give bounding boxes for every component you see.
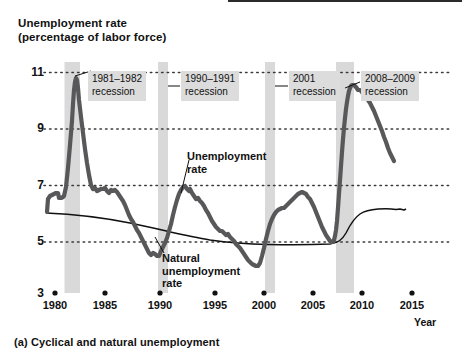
x-tick-dot-1985 (102, 290, 107, 295)
annotation-unemployment-rate-line1: Unemployment (187, 150, 266, 163)
annotation-natural-rate-line3: rate (162, 277, 240, 290)
recession-label-1990-1991: 1990–1991 recession (181, 71, 239, 101)
x-tick-dot-2000 (261, 290, 266, 295)
x-tick-dot-2010 (359, 290, 364, 295)
annotation-natural-rate-line2: unemployment (162, 265, 240, 278)
x-axis-label-2010: 2010 (339, 299, 385, 311)
y-axis-label-9: 9 (22, 121, 44, 135)
y-axis-label-7: 7 (22, 178, 44, 192)
annotation-natural-rate: Natural unemployment rate (162, 252, 240, 290)
recession-label-2001-line1: 2001 (293, 73, 336, 86)
figure-caption: (a) Cyclical and natural unemployment (14, 336, 219, 348)
recession-label-2008-2009-line2: recession (365, 86, 415, 99)
annotation-unemployment-rate: Unemployment rate (187, 150, 266, 175)
x-axis-label-1980: 1980 (32, 299, 78, 311)
x-tick-dot-1980 (52, 290, 57, 295)
recession-label-1981-1982-line2: recession (92, 86, 142, 99)
x-axis-label-1990: 1990 (137, 299, 183, 311)
recession-label-2001: 2001 recession (289, 71, 340, 101)
recession-label-1990-1991-line1: 1990–1991 (185, 73, 235, 86)
y-axis-label-5: 5 (22, 234, 44, 248)
x-axis-label-1985: 1985 (82, 299, 128, 311)
x-axis-label-2005: 2005 (290, 299, 336, 311)
x-tick-dot-1995 (212, 290, 217, 295)
x-axis-title: Year (414, 316, 436, 328)
x-axis-label-2015: 2015 (389, 299, 435, 311)
x-tick-dot-2005 (310, 290, 315, 295)
recession-label-1981-1982-line1: 1981–1982 (92, 73, 142, 86)
recession-label-2008-2009: 2008–2009 recession (361, 71, 419, 101)
recession-label-1981-1982: 1981–1982 recession (88, 71, 146, 101)
recession-label-2001-line2: recession (293, 86, 336, 99)
annotation-unemployment-rate-line2: rate (187, 163, 266, 176)
recession-label-2008-2009-line1: 2008–2009 (365, 73, 415, 86)
recession-band-2001 (265, 62, 275, 293)
recession-label-1990-1991-line2: recession (185, 86, 235, 99)
y-axis-label-11: 11 (22, 65, 44, 79)
x-tick-dot-1990 (157, 290, 162, 295)
figure-unemployment-chart: Unemployment rate (percentage of labor f… (0, 0, 462, 359)
x-tick-dot-2015 (409, 290, 414, 295)
x-axis-label-1995: 1995 (192, 299, 238, 311)
y-axis-label-3: 3 (22, 286, 44, 300)
x-tick-dots (52, 290, 414, 295)
annotation-natural-rate-line1: Natural (162, 252, 240, 265)
x-axis-label-2000: 2000 (241, 299, 287, 311)
